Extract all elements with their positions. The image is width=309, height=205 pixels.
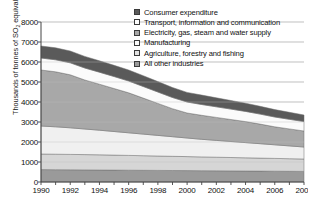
legend-item[interactable]: Consumer expenditure <box>134 7 280 17</box>
legend-item-label: Electricity, gas, steam and water supply <box>144 28 271 37</box>
legend-swatch-icon <box>134 30 140 36</box>
legend-item-label: Manufacturing <box>144 38 190 47</box>
y-axis-tick-label: 2000 <box>4 138 38 147</box>
y-axis-tick-label: 4000 <box>4 98 38 107</box>
legend-swatch-icon <box>134 50 140 56</box>
x-axis-tick-label: 1998 <box>149 186 166 195</box>
x-axis-tick-label: 1994 <box>91 186 108 195</box>
x-axis-tick-label: 2008 <box>296 186 309 195</box>
legend-item[interactable]: Electricity, gas, steam and water supply <box>134 28 280 38</box>
y-axis-tick-label: 1000 <box>4 158 38 167</box>
legend-swatch-icon <box>134 61 140 67</box>
x-axis-tick-label: 2000 <box>179 186 196 195</box>
legend-item[interactable]: Transport, information and communication <box>134 17 280 27</box>
x-axis-tick-label: 2002 <box>208 186 225 195</box>
x-axis-tick-label: 1990 <box>33 186 50 195</box>
legend-item-label: All other industries <box>144 59 203 68</box>
y-axis-tick-label: 3000 <box>4 118 38 127</box>
stacked-area-chart: Thousands of tonnes of SO2 equivalent 01… <box>0 0 308 205</box>
legend-item[interactable]: Agriculture, forestry and fishing <box>134 48 280 58</box>
legend-item[interactable]: Manufacturing <box>134 38 280 48</box>
legend-swatch-icon <box>134 40 140 46</box>
x-axis-tick-label: 2006 <box>266 186 283 195</box>
x-axis-tick-label: 2004 <box>237 186 254 195</box>
y-axis-tick-label: 5000 <box>4 78 38 87</box>
legend-item-label: Transport, information and communication <box>144 18 280 27</box>
legend-item[interactable]: All other industries <box>134 58 280 68</box>
y-axis-tick-labels: 010002000300040005000600070008000 <box>0 0 38 205</box>
chart-legend: Consumer expenditureTransport, informati… <box>134 7 280 69</box>
legend-swatch-icon <box>134 9 140 15</box>
x-axis-tick-label: 1992 <box>62 186 79 195</box>
y-axis-tick-label: 6000 <box>4 58 38 67</box>
legend-item-label: Agriculture, forestry and fishing <box>144 49 244 58</box>
legend-item-label: Consumer expenditure <box>144 8 218 17</box>
x-axis-tick-label: 1996 <box>120 186 137 195</box>
y-axis-tick-label: 7000 <box>4 38 38 47</box>
legend-swatch-icon <box>134 19 140 25</box>
area-band <box>41 170 304 182</box>
y-axis-tick-label: 8000 <box>4 18 38 27</box>
